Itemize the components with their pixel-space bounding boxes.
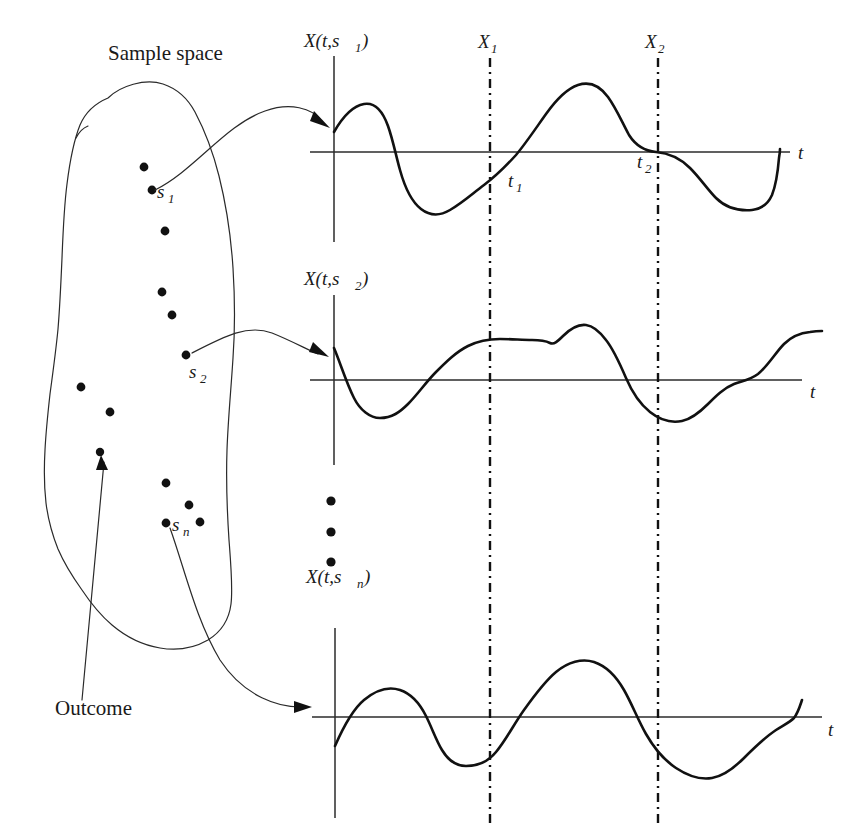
svg-text:X(t,s: X(t,s bbox=[305, 566, 341, 588]
crossing-label-t1: t 1 bbox=[508, 170, 523, 195]
arrow-s1-curve bbox=[155, 107, 322, 190]
arrow-s1-to-wave1 bbox=[155, 107, 330, 190]
arrow-s2-head bbox=[309, 342, 329, 357]
outcome-dot bbox=[161, 227, 170, 236]
wave2-curve bbox=[334, 325, 822, 422]
svg-text:n: n bbox=[183, 524, 190, 539]
svg-text:t: t bbox=[508, 170, 514, 191]
label-s2: s 2 bbox=[189, 361, 207, 386]
svg-text:2: 2 bbox=[355, 278, 362, 293]
svg-text:X: X bbox=[477, 31, 491, 52]
svg-text:2: 2 bbox=[645, 161, 652, 176]
outcome-dot bbox=[140, 163, 149, 172]
svg-text:): ) bbox=[361, 30, 368, 52]
crossing-label-t2: t 2 bbox=[637, 151, 652, 176]
arrow-sn-head bbox=[294, 701, 312, 713]
outcome-arrowhead bbox=[96, 455, 108, 470]
outcome-dot bbox=[158, 288, 167, 297]
waveform-2-group bbox=[310, 295, 822, 465]
ellipsis-dot bbox=[326, 496, 335, 505]
vertical-ellipsis-group bbox=[326, 496, 335, 566]
svg-text:1: 1 bbox=[491, 41, 498, 56]
waveform-2-label: X(t,s 2 ) bbox=[303, 268, 368, 293]
svg-text:X(t,s: X(t,s bbox=[303, 268, 339, 290]
outcome-dot bbox=[77, 383, 86, 392]
sample-space-group bbox=[44, 82, 234, 649]
marker-label-X2: X 2 bbox=[644, 31, 665, 56]
arrow-sn-to-wave3 bbox=[170, 528, 312, 713]
svg-text:2: 2 bbox=[200, 371, 207, 386]
outcome-dot bbox=[185, 501, 194, 510]
outcome-dot bbox=[162, 479, 171, 488]
outcome-dot bbox=[168, 311, 177, 320]
outcome-pointer-group bbox=[82, 455, 108, 700]
svg-text:X(t,s: X(t,s bbox=[303, 30, 339, 52]
arrow-s1-head bbox=[310, 111, 330, 128]
waveform-3-group bbox=[312, 628, 822, 818]
label-s1: s 1 bbox=[157, 181, 175, 206]
outcome-dot-sn bbox=[162, 519, 171, 528]
wave2-t-axis-label: t bbox=[810, 381, 816, 402]
svg-text:1: 1 bbox=[355, 40, 362, 55]
outcome-dot bbox=[196, 518, 205, 527]
outcome-dot-s2 bbox=[182, 351, 191, 360]
outcome-dot-highlighted bbox=[96, 448, 104, 456]
outcome-dot bbox=[106, 408, 115, 417]
waveform-1-label: X(t,s 1 ) bbox=[303, 30, 368, 55]
svg-text:t: t bbox=[637, 151, 643, 172]
figure-canvas: Sample space Outcome s 1 s 2 s n X(t,s 1… bbox=[0, 0, 845, 838]
svg-text:): ) bbox=[361, 268, 368, 290]
svg-text:s: s bbox=[189, 361, 196, 382]
waveform-1-group bbox=[310, 56, 790, 242]
svg-text:1: 1 bbox=[516, 180, 523, 195]
svg-text:1: 1 bbox=[168, 191, 175, 206]
wave1-t-axis-label: t bbox=[798, 142, 804, 163]
svg-text:n: n bbox=[357, 576, 364, 591]
arrow-s2-curve bbox=[192, 330, 318, 354]
sample-space-outline bbox=[44, 82, 234, 649]
outcome-leader-line bbox=[82, 462, 104, 700]
outcome-label: Outcome bbox=[55, 696, 132, 720]
label-sn: s n bbox=[172, 514, 190, 539]
waveform-3-label: X(t,s n ) bbox=[305, 566, 370, 591]
ellipsis-dot bbox=[326, 527, 335, 536]
wave1-curve bbox=[334, 84, 780, 215]
svg-text:s: s bbox=[157, 181, 164, 202]
svg-text:2: 2 bbox=[658, 41, 665, 56]
arrow-sn-curve bbox=[170, 528, 300, 707]
marker-label-X1: X 1 bbox=[477, 31, 498, 56]
wave3-curve bbox=[335, 660, 802, 778]
wave3-t-axis-label: t bbox=[828, 719, 834, 740]
arrow-s2-to-wave2 bbox=[192, 330, 329, 357]
svg-text:X: X bbox=[644, 31, 658, 52]
svg-text:): ) bbox=[363, 566, 370, 588]
random-process-diagram: Sample space Outcome s 1 s 2 s n X(t,s 1… bbox=[0, 0, 845, 838]
svg-text:s: s bbox=[172, 514, 179, 535]
sample-space-title: Sample space bbox=[108, 41, 223, 65]
